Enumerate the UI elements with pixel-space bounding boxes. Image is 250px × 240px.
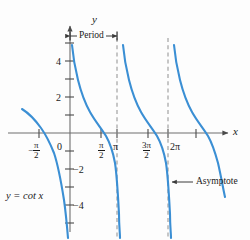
period-label: Period — [77, 31, 106, 41]
y-tick-label-minus-4: −4 — [73, 201, 84, 211]
x-tick-label-3pi-over-2: 3π 2 — [141, 141, 152, 161]
y-tick-label-4: 4 — [56, 57, 61, 67]
plot-canvas — [0, 0, 250, 240]
cotangent-graph-figure: y x Period Asymptote y = cot x 4 2 −2 −4… — [0, 0, 250, 240]
y-tick-label-minus-2: −2 — [73, 165, 84, 175]
y-tick-label-2: 2 — [56, 93, 61, 103]
branch-minus-pi-to-zero — [22, 109, 68, 238]
x-tick-label-pi: π — [113, 142, 118, 152]
equation-label: y = cot x — [6, 191, 43, 202]
x-tick-label-pi-over-2: π 2 — [98, 141, 105, 161]
branch-2pi-to-3pi — [174, 45, 225, 197]
x-axis-label: x — [233, 126, 238, 137]
asymptote-lines — [117, 38, 168, 238]
cotangent-curve — [22, 45, 225, 238]
x-tick-label-2pi: 2π — [170, 142, 180, 152]
asymptote-label: Asymptote — [196, 177, 238, 187]
x-tick-label-minus-pi-over-2: − π 2 — [28, 141, 40, 161]
y-axis-label: y — [92, 14, 97, 25]
x-tick-label-zero: 0 — [57, 142, 62, 152]
